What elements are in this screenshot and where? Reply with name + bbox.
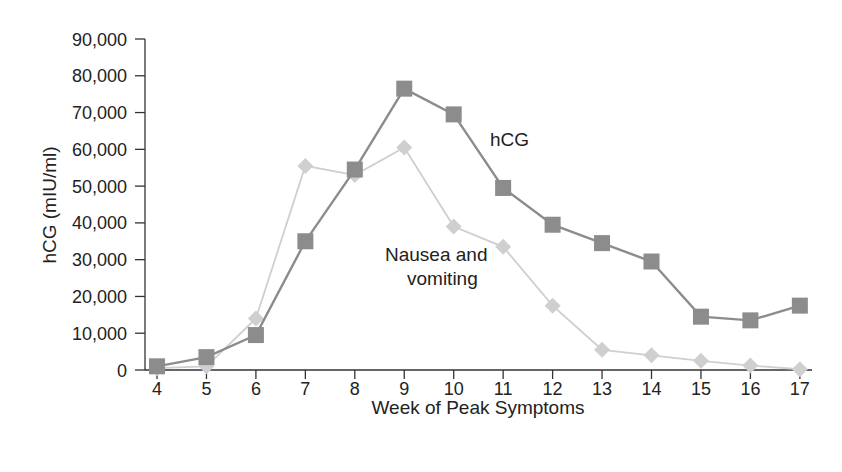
nausea-diamond-marker xyxy=(792,361,808,377)
hcg-square-marker xyxy=(545,217,561,233)
hcg-square-marker xyxy=(495,180,511,196)
y-tick-label: 60,000 xyxy=(72,140,127,160)
y-tick-label: 30,000 xyxy=(72,250,127,270)
series-hcg xyxy=(149,81,808,375)
x-tick-label: 11 xyxy=(494,379,513,399)
nausea-diamond-marker xyxy=(297,158,313,174)
hcg-square-marker xyxy=(792,298,808,314)
annotation-nausea-line1: Nausea and xyxy=(385,244,487,265)
hcg-square-marker xyxy=(396,81,412,97)
hcg-square-marker xyxy=(446,106,462,122)
x-tick-label: 4 xyxy=(152,379,162,399)
y-tick-label: 0 xyxy=(117,361,127,381)
annotation-hcg: hCG xyxy=(490,129,529,150)
nausea-diamond-marker xyxy=(446,219,462,235)
hcg-square-marker xyxy=(198,349,214,365)
y-tick-label: 10,000 xyxy=(72,324,127,344)
hcg-square-marker xyxy=(742,312,758,328)
y-tick-label: 50,000 xyxy=(72,177,127,197)
hcg-square-marker xyxy=(693,309,709,325)
y-tick-label: 70,000 xyxy=(72,103,127,123)
hcg-square-marker xyxy=(594,235,610,251)
x-tick-label: 16 xyxy=(740,379,760,399)
x-tick-label: 10 xyxy=(444,379,464,399)
y-tick-label: 20,000 xyxy=(72,287,127,307)
hcg-square-marker xyxy=(297,233,313,249)
annotation-nausea-line2: vomiting xyxy=(407,268,478,289)
nausea-diamond-marker xyxy=(396,139,412,155)
x-tick-label: 17 xyxy=(790,379,810,399)
x-tick-label: 5 xyxy=(201,379,211,399)
x-tick-label: 9 xyxy=(399,379,409,399)
nausea-diamond-marker xyxy=(742,358,758,374)
x-tick-label: 8 xyxy=(350,379,360,399)
hcg-square-marker xyxy=(347,162,363,178)
x-axis-label: Week of Peak Symptoms xyxy=(372,397,585,418)
hcg-square-marker xyxy=(149,358,165,374)
y-tick-label: 40,000 xyxy=(72,213,127,233)
hcg-square-marker xyxy=(644,254,660,270)
hcg-nausea-line-chart: 010,00020,00030,00040,00050,00060,00070,… xyxy=(0,0,842,472)
nausea-diamond-marker xyxy=(693,353,709,369)
x-axis: 4567891011121314151617 xyxy=(145,370,812,399)
y-tick-label: 80,000 xyxy=(72,66,127,86)
x-tick-label: 14 xyxy=(641,379,661,399)
y-axis-label: hCG (mIU/ml) xyxy=(39,146,60,263)
y-tick-label: 90,000 xyxy=(72,30,127,50)
series-layer xyxy=(149,81,808,378)
x-tick-label: 7 xyxy=(300,379,310,399)
hcg-square-marker xyxy=(248,327,264,343)
x-tick-label: 13 xyxy=(592,379,612,399)
nausea-diamond-marker xyxy=(644,347,660,363)
x-tick-label: 6 xyxy=(251,379,261,399)
y-axis: 010,00020,00030,00040,00050,00060,00070,… xyxy=(72,30,145,381)
x-tick-label: 15 xyxy=(691,379,711,399)
x-tick-label: 12 xyxy=(543,379,563,399)
